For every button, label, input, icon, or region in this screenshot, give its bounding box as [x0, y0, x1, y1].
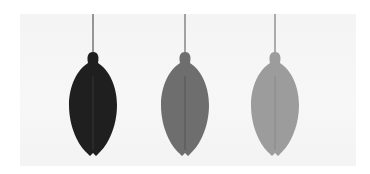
bulb-icon [155, 0, 215, 174]
light-bulb [245, 0, 305, 174]
medium-bulb [155, 0, 215, 174]
bulb-icon [245, 0, 305, 174]
dark-bulb [63, 0, 123, 174]
bulb-icon [63, 0, 123, 174]
